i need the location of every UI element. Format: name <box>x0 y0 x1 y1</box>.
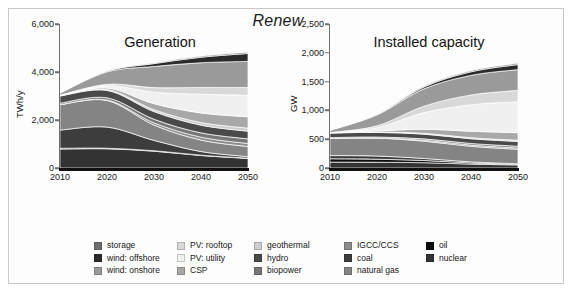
legend-item-wind-offshore[interactable]: wind: offshore <box>94 253 160 264</box>
legend-item-wind-onshore[interactable]: wind: onshore <box>94 265 160 276</box>
legend-item-coal[interactable]: coal <box>344 253 399 264</box>
stacked-area-capacity <box>330 24 518 168</box>
legend-swatch-pv-rooftop <box>177 242 185 250</box>
y-tickmark-capacity-3 <box>325 81 329 83</box>
y-tickmark-capacity-2 <box>325 110 329 112</box>
legend-item-csp[interactable]: CSP <box>177 265 232 276</box>
plot-area-capacity <box>330 24 518 168</box>
legend-item-natural-gas[interactable]: natural gas <box>344 265 399 276</box>
legend-label-storage: storage <box>107 241 135 250</box>
legend-item-nuclear[interactable]: nuclear <box>426 253 467 264</box>
legend-item-geothermal[interactable]: geothermal <box>254 240 310 251</box>
y-tick-capacity-4: 2,000 <box>290 48 324 58</box>
y-tickmark-generation-3 <box>55 23 59 25</box>
legend-swatch-csp <box>177 267 185 275</box>
legend-item-igcc-ccs[interactable]: IGCC/CCS <box>344 240 399 251</box>
legend-swatch-geothermal <box>254 242 262 250</box>
x-axis-line-generation <box>59 168 249 171</box>
legend-label-natural-gas: natural gas <box>357 266 399 275</box>
legend-swatch-hydro <box>254 254 262 262</box>
legend-item-storage[interactable]: storage <box>94 240 160 251</box>
legend-column-2: geothermalhydrobiopower <box>254 240 310 278</box>
y-tick-generation-2: 4,000 <box>20 67 54 77</box>
legend-item-pv-rooftop[interactable]: PV: rooftop <box>177 240 232 251</box>
x-tick-generation-4: 2050 <box>228 172 268 182</box>
x-tick-generation-2: 2030 <box>134 172 174 182</box>
x-tick-capacity-2: 2030 <box>404 172 444 182</box>
legend-swatch-wind-offshore <box>94 254 102 262</box>
legend-swatch-pv-utility <box>177 254 185 262</box>
legend-item-hydro[interactable]: hydro <box>254 253 310 264</box>
x-tick-generation-3: 2040 <box>181 172 221 182</box>
y-axis-label-generation: TWh/y <box>14 91 25 118</box>
legend-label-biopower: biopower <box>267 266 302 275</box>
legend-label-igcc-ccs: IGCC/CCS <box>357 241 399 250</box>
y-tick-generation-1: 2,000 <box>20 115 54 125</box>
y-tickmark-generation-0 <box>55 167 59 169</box>
stacked-area-generation <box>60 24 248 168</box>
legend-label-csp: CSP <box>190 266 207 275</box>
legend-label-geothermal: geothermal <box>267 241 310 250</box>
legend-label-oil: oil <box>439 241 448 250</box>
y-tick-generation-3: 6,000 <box>20 19 54 29</box>
y-tickmark-capacity-0 <box>325 167 329 169</box>
x-tick-generation-0: 2010 <box>40 172 80 182</box>
legend-swatch-storage <box>94 242 102 250</box>
x-tick-capacity-3: 2040 <box>451 172 491 182</box>
legend-label-hydro: hydro <box>267 254 288 263</box>
y-tickmark-capacity-1 <box>325 138 329 140</box>
y-tick-capacity-1: 500 <box>290 134 324 144</box>
y-tickmark-capacity-5 <box>325 23 329 25</box>
legend-swatch-biopower <box>254 267 262 275</box>
legend-swatch-coal <box>344 254 352 262</box>
x-tick-capacity-0: 2010 <box>310 172 350 182</box>
x-tick-capacity-4: 2050 <box>498 172 538 182</box>
figure-root: Renew Generation TWh/y Installed capacit… <box>0 0 576 294</box>
y-tickmark-generation-2 <box>55 71 59 73</box>
legend-item-oil[interactable]: oil <box>426 240 467 251</box>
chart-legend: storagewind: offshorewind: onshorePV: ro… <box>14 240 544 276</box>
x-tick-generation-1: 2020 <box>87 172 127 182</box>
legend-swatch-wind-onshore <box>94 267 102 275</box>
legend-label-pv-rooftop: PV: rooftop <box>190 241 232 250</box>
legend-label-wind-onshore: wind: onshore <box>107 266 160 275</box>
x-axis-line-capacity <box>329 168 519 171</box>
plot-area-generation <box>60 24 248 168</box>
legend-swatch-nuclear <box>426 254 434 262</box>
legend-swatch-oil <box>426 242 434 250</box>
legend-label-pv-utility: PV: utility <box>190 254 225 263</box>
y-tick-capacity-3: 1,500 <box>290 77 324 87</box>
x-tick-capacity-1: 2020 <box>357 172 397 182</box>
legend-label-wind-offshore: wind: offshore <box>107 254 160 263</box>
y-tick-capacity-2: 1,000 <box>290 105 324 115</box>
legend-label-nuclear: nuclear <box>439 254 467 263</box>
legend-swatch-igcc-ccs <box>344 242 352 250</box>
legend-column-1: PV: rooftopPV: utilityCSP <box>177 240 232 278</box>
legend-column-0: storagewind: offshorewind: onshore <box>94 240 160 278</box>
y-tick-capacity-5: 2,500 <box>290 19 324 29</box>
legend-item-pv-utility[interactable]: PV: utility <box>177 253 232 264</box>
legend-item-biopower[interactable]: biopower <box>254 265 310 276</box>
legend-column-3: IGCC/CCScoalnatural gas <box>344 240 399 278</box>
y-tickmark-generation-1 <box>55 119 59 121</box>
y-tickmark-capacity-4 <box>325 52 329 54</box>
legend-label-coal: coal <box>357 254 373 263</box>
legend-column-4: oilnuclear <box>426 240 467 265</box>
legend-swatch-natural-gas <box>344 267 352 275</box>
